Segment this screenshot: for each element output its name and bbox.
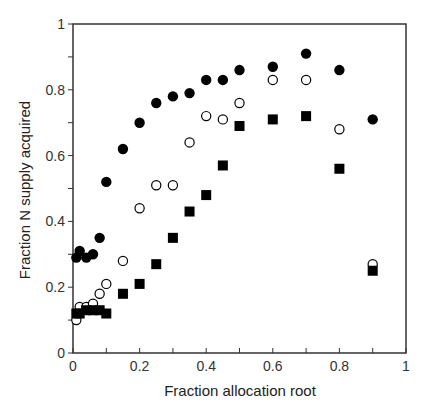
data-point <box>334 164 344 174</box>
data-point <box>152 181 161 190</box>
data-point <box>168 233 178 243</box>
x-axis: 00.20.40.60.81 <box>69 348 410 374</box>
data-point <box>334 65 344 75</box>
data-point <box>368 266 378 276</box>
data-point <box>134 118 144 128</box>
y-tick-label: 0.6 <box>46 148 66 164</box>
data-point <box>234 65 244 75</box>
data-point <box>168 181 177 190</box>
data-point <box>301 48 311 58</box>
x-tick-label: 0 <box>69 358 77 374</box>
y-axis: 00.20.40.60.81 <box>46 16 73 361</box>
y-tick-label: 0.4 <box>46 213 66 229</box>
y-tick-label: 0.2 <box>46 279 66 295</box>
data-point <box>101 177 111 187</box>
data-point <box>202 112 211 121</box>
data-point <box>235 121 245 131</box>
data-point <box>151 259 161 269</box>
data-point <box>88 249 98 259</box>
data-point <box>185 207 195 217</box>
scatter-chart: 00.20.40.60.81 00.20.40.60.81 Fraction a… <box>0 0 422 411</box>
y-tick-label: 0.8 <box>46 82 66 98</box>
data-point <box>201 190 211 200</box>
data-point <box>335 125 344 134</box>
x-tick-label: 0.4 <box>196 358 216 374</box>
data-point <box>95 289 104 298</box>
data-point <box>201 75 211 85</box>
data-point <box>102 279 111 288</box>
x-tick-label: 1 <box>402 358 410 374</box>
y-tick-label: 0 <box>57 345 65 361</box>
data-point <box>135 279 145 289</box>
data-point <box>368 114 378 124</box>
data-point <box>118 144 128 154</box>
x-tick-label: 0.2 <box>130 358 150 374</box>
data-point <box>268 114 278 124</box>
data-point <box>301 111 311 121</box>
data-point <box>218 115 227 124</box>
x-tick-label: 0.6 <box>263 358 283 374</box>
data-point <box>168 91 178 101</box>
y-tick-label: 1 <box>57 16 65 32</box>
data-point <box>185 138 194 147</box>
data-point <box>135 204 144 213</box>
data-point <box>94 233 104 243</box>
data-point <box>184 88 194 98</box>
data-point <box>235 98 244 107</box>
data-point <box>118 256 127 265</box>
data-point <box>101 309 111 319</box>
x-axis-title: Fraction allocation root <box>164 382 317 399</box>
data-point <box>218 75 228 85</box>
data-points <box>71 48 378 324</box>
data-point <box>118 289 128 299</box>
data-point <box>151 98 161 108</box>
y-axis-title: Fraction N supply acquired <box>16 101 33 279</box>
x-tick-label: 0.8 <box>330 358 350 374</box>
data-point <box>218 160 228 170</box>
series-filled-squares <box>71 111 377 318</box>
data-point <box>302 75 311 84</box>
series-open-circles <box>72 75 378 324</box>
data-point <box>268 75 277 84</box>
series-filled-circles <box>71 48 378 262</box>
data-point <box>268 62 278 72</box>
